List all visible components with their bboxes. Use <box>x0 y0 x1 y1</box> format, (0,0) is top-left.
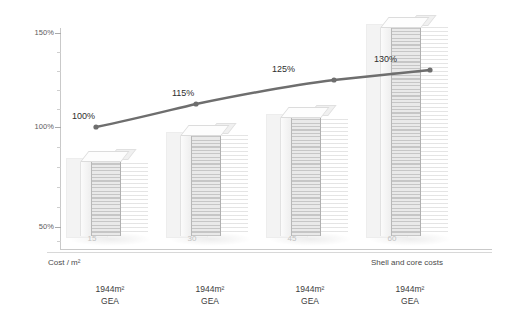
x-tick-label-30: 30 <box>162 234 222 243</box>
x-tick-label-60: 60 <box>362 234 422 243</box>
footer-gea-unit: GEA <box>262 295 358 307</box>
chart-canvas: 150% 100% 50% <box>0 0 512 320</box>
building-group-2 <box>162 0 254 246</box>
footer-gea-3: 1944m² GEA <box>262 283 358 307</box>
x-tick-label-15: 15 <box>62 234 122 243</box>
y-tick-major-50 <box>55 227 61 228</box>
y-tick-minor <box>57 147 61 148</box>
y-tick-minor <box>57 167 61 168</box>
y-axis-label-150-wrap: 150% <box>18 28 54 38</box>
y-tick-major-100 <box>55 127 61 128</box>
y-tick-minor <box>57 187 61 188</box>
y-axis-label-50-wrap: 50% <box>18 222 54 232</box>
footer-gea-area: 1944m² <box>362 283 458 295</box>
y-tick-minor <box>57 207 61 208</box>
data-label-115: 115% <box>172 88 194 98</box>
y-axis-label-50: 50% <box>20 222 54 231</box>
data-label-130: 130% <box>374 54 397 64</box>
y-tick-minor <box>57 241 61 242</box>
y-tick-minor <box>57 71 61 72</box>
axis-caption-cost-per-m2: Cost / m² <box>48 258 80 267</box>
footer-gea-2: 1944m² GEA <box>162 283 258 307</box>
y-axis-line <box>60 28 61 250</box>
footer-gea-unit: GEA <box>62 295 158 307</box>
building-front-face <box>191 136 221 236</box>
footer-gea-area: 1944m² <box>262 283 358 295</box>
building-front-face <box>91 162 121 236</box>
building-roof <box>80 151 130 162</box>
footer-gea-area: 1944m² <box>62 283 158 295</box>
footer-gea-area: 1944m² <box>162 283 258 295</box>
x-axis-line <box>60 249 492 250</box>
y-tick-minor <box>57 109 61 110</box>
footer-gea-4: 1944m² GEA <box>362 283 458 307</box>
y-tick-minor <box>57 52 61 53</box>
building-group-1 <box>62 0 154 246</box>
y-tick-major-150 <box>55 33 61 34</box>
y-axis-label-100-wrap: 100% <box>18 122 54 132</box>
y-axis-label-100: 100% <box>20 122 54 131</box>
footer-separator <box>47 252 492 253</box>
footer-gea-1: 1944m² GEA <box>62 283 158 307</box>
building-roof <box>180 125 230 136</box>
y-axis-label-150: 150% <box>20 28 54 37</box>
footer-gea-unit: GEA <box>362 295 458 307</box>
data-label-125: 125% <box>272 64 295 74</box>
building-roof <box>380 17 430 28</box>
footer-gea-unit: GEA <box>162 295 258 307</box>
axis-caption-shell-and-core: Shell and core costs <box>371 258 443 267</box>
building-group-4 <box>362 0 454 246</box>
y-tick-minor <box>57 90 61 91</box>
data-label-100: 100% <box>72 111 95 121</box>
building-roof <box>280 107 330 118</box>
building-group-3 <box>262 0 354 246</box>
building-front-face <box>291 118 321 236</box>
x-tick-label-45: 45 <box>262 234 322 243</box>
